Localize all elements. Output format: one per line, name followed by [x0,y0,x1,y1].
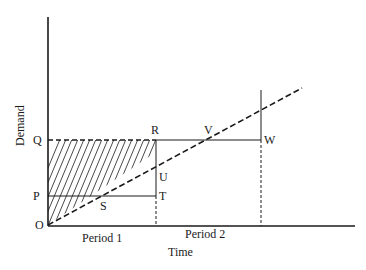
label-u: U [159,170,168,184]
demand-trend-line [48,88,302,225]
label-s: S [100,199,107,213]
label-r: R [151,123,159,137]
label-w: W [264,133,276,147]
label-t: T [159,189,167,203]
label-p: P [33,189,40,203]
y-axis-label: Demand [13,105,27,146]
x-axis-label: Time [168,245,193,259]
label-v: V [204,123,213,137]
period-1-label: Period 1 [82,231,122,245]
label-o: O [35,218,44,232]
label-q: Q [33,133,42,147]
demand-time-diagram: Q R V W U P T S O Period 1 Period 2 Time… [0,0,366,270]
period-2-label: Period 2 [185,227,225,241]
